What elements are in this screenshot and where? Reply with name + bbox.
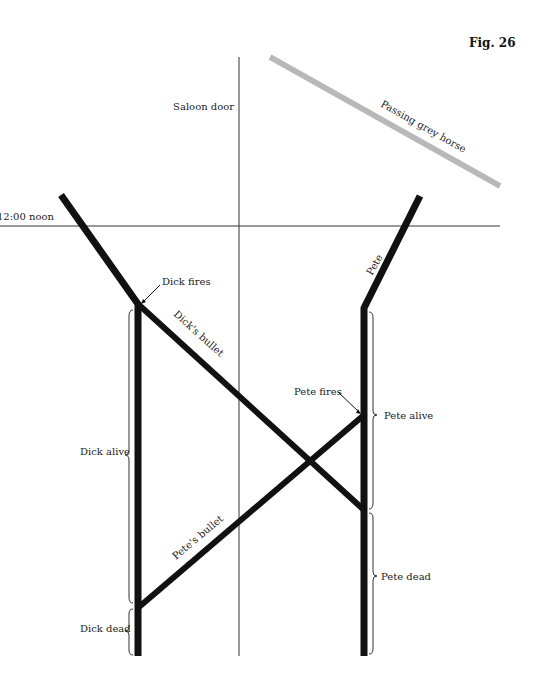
figure-title: Fig. 26 [469,36,516,50]
horse-worldline [270,57,500,186]
saloon-door-label: Saloon door [173,101,234,112]
noon-label: 12:00 noon [0,211,54,222]
dick-bullet-label: Dick's bullet [172,308,226,358]
pete-fires-label: Pete fires [294,386,342,397]
dick-fires-label: Dick fires [162,276,211,287]
pete-dead-label: Pete dead [381,571,432,582]
pete-alive-brace [369,312,377,509]
spacetime-diagram: Fig. 26 Saloon door 12:00 noon Passing g… [0,0,548,676]
pete-bullet-worldline [139,415,364,607]
dick-fires-pointer [143,285,160,302]
dick-dead-label: Dick dead [80,623,131,634]
dick-bullet-worldline [138,304,364,510]
pete-alive-label: Pete alive [384,410,433,421]
dick-alive-label: Dick alive [80,446,130,457]
pete-fires-pointer [338,392,359,412]
pete-dead-brace [369,513,377,654]
dick-worldline [61,195,138,656]
